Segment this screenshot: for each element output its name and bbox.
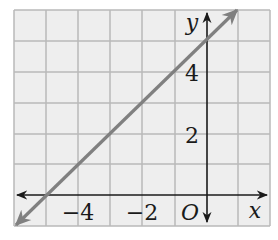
x-tick-label-neg4: −4 — [62, 200, 94, 225]
y-axis-label: y — [185, 10, 199, 35]
origin-label: O — [181, 200, 199, 225]
x-tick-label-neg2: −2 — [126, 200, 158, 225]
y-tick-label-2: 2 — [185, 123, 199, 148]
x-axis-label: x — [249, 198, 262, 223]
coordinate-plane: −4 −2 4 2 O x y — [0, 0, 278, 240]
y-tick-label-4: 4 — [185, 61, 199, 86]
